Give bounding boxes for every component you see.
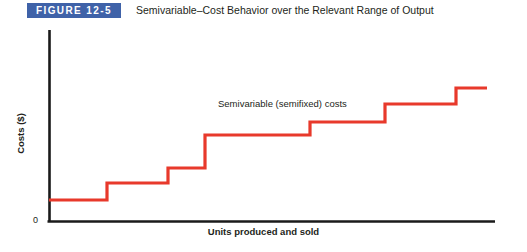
origin-label: 0: [33, 215, 38, 225]
figure-header: FIGURE 12-5 Semivariable–Cost Behavior o…: [0, 0, 527, 24]
x-axis-title: Units produced and sold: [0, 226, 527, 237]
y-axis-title: Costs ($): [15, 94, 26, 174]
figure-number-badge: FIGURE 12-5: [27, 3, 121, 18]
figure-title: Semivariable–Cost Behavior over the Rele…: [136, 2, 434, 18]
series-annotation-label: Semivariable (semifixed) costs: [218, 98, 347, 109]
chart-canvas: [0, 24, 527, 252]
chart-plot-area: Costs ($) 0 Units produced and sold Semi…: [0, 24, 527, 252]
